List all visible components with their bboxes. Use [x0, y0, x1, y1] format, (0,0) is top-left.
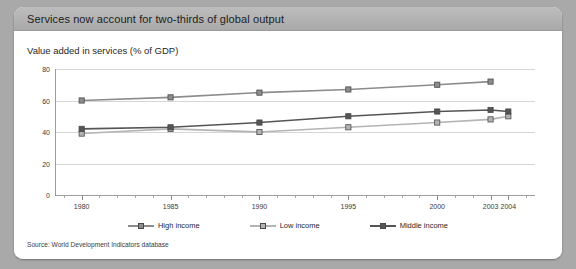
data-point-middle-income-1: [168, 125, 173, 130]
x-tick-label-2000: 2000: [429, 203, 445, 210]
x-tick-minor-1988: [224, 195, 225, 198]
panel-title: Services now account for two-thirds of g…: [27, 13, 284, 25]
x-tick-minor-1987: [206, 195, 207, 198]
x-tick-minor-1983: [135, 195, 136, 198]
legend-swatch-icon: [370, 225, 396, 227]
x-tick-label-1980: 1980: [74, 203, 90, 210]
y-tick-label-0: 0: [46, 192, 50, 199]
y-tick-label-60: 60: [42, 97, 50, 104]
x-tick-minor-1994: [331, 195, 332, 198]
x-tick-minor-2002: [473, 195, 474, 198]
data-point-low-income-3: [346, 125, 351, 130]
x-tick-minor-1996: [366, 195, 367, 198]
data-point-middle-income-5: [488, 107, 493, 112]
x-tick-minor-2001: [455, 195, 456, 198]
data-point-middle-income-4: [435, 109, 440, 114]
legend-item-low-income[interactable]: Low income: [250, 221, 320, 230]
x-tick-label-1985: 1985: [163, 203, 179, 210]
x-tick-minor-1986: [188, 195, 189, 198]
x-tick-major-1995: [348, 195, 349, 200]
x-tick-label-2004: 2004: [501, 203, 517, 210]
data-point-high-income-3: [346, 87, 351, 92]
x-tick-major-1980: [82, 195, 83, 200]
series-line-low-income: [82, 116, 509, 133]
data-point-high-income-2: [257, 90, 262, 95]
x-tick-minor-1979: [64, 195, 65, 198]
y-tick-label-20: 20: [42, 160, 50, 167]
legend-swatch-icon: [250, 225, 276, 227]
data-point-low-income-5: [488, 117, 493, 122]
legend-item-middle-income[interactable]: Middle income: [370, 221, 448, 230]
plot-area: 020406080 1980198519901995200020032004: [55, 69, 535, 195]
x-tick-label-1990: 1990: [252, 203, 268, 210]
legend-swatch-icon: [128, 225, 154, 227]
x-tick-major-2003: [491, 195, 492, 200]
panel-titlebar: Services now account for two-thirds of g…: [14, 7, 562, 31]
x-tick-label-1995: 1995: [341, 203, 357, 210]
series-line-high-income: [82, 82, 491, 101]
x-tick-minor-1981: [99, 195, 100, 198]
chart-source: Source: World Development Indicators dat…: [27, 241, 169, 248]
legend-label: Low income: [280, 221, 320, 230]
y-tick-label-40: 40: [42, 129, 50, 136]
data-series-layer: [55, 69, 535, 195]
x-tick-major-2000: [437, 195, 438, 200]
chart-panel: Services now account for two-thirds of g…: [14, 7, 562, 259]
data-point-middle-income-0: [79, 126, 84, 131]
chart-legend: High incomeLow incomeMiddle income: [14, 221, 562, 230]
x-tick-major-1985: [171, 195, 172, 200]
x-tick-minor-1993: [313, 195, 314, 198]
data-point-middle-income-6: [506, 109, 511, 114]
x-tick-minor-1999: [419, 195, 420, 198]
x-tick-major-2004: [508, 195, 509, 200]
data-point-middle-income-2: [257, 120, 262, 125]
legend-label: High income: [158, 221, 200, 230]
legend-label: Middle income: [400, 221, 448, 230]
data-point-high-income-0: [79, 98, 84, 103]
x-tick-minor-1982: [117, 195, 118, 198]
x-tick-major-1990: [259, 195, 260, 200]
x-tick-minor-1991: [277, 195, 278, 198]
data-point-middle-income-3: [346, 114, 351, 119]
data-point-high-income-1: [168, 95, 173, 100]
legend-item-high-income[interactable]: High income: [128, 221, 200, 230]
panel-body: Value added in services (% of GDP) 02040…: [14, 31, 562, 259]
x-tick-minor-1997: [384, 195, 385, 198]
data-point-high-income-4: [435, 82, 440, 87]
x-tick-minor-1998: [402, 195, 403, 198]
x-tick-minor-1984: [153, 195, 154, 198]
x-tick-minor-2005: [526, 195, 527, 198]
chart-subtitle: Value added in services (% of GDP): [27, 45, 178, 56]
x-tick-minor-1989: [242, 195, 243, 198]
data-point-low-income-4: [435, 120, 440, 125]
x-tick-minor-1992: [295, 195, 296, 198]
y-tick-label-80: 80: [42, 66, 50, 73]
data-point-high-income-5: [488, 79, 493, 84]
data-point-low-income-2: [257, 129, 262, 134]
x-tick-label-2003: 2003: [483, 203, 499, 210]
series-line-middle-income: [82, 110, 509, 129]
